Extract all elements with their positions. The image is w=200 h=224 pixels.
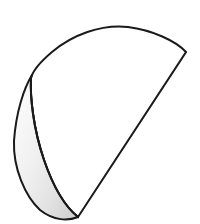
figure-canvas: Cone sector with shaded crescent	[0, 0, 200, 224]
cone-sector-svg	[0, 0, 200, 224]
